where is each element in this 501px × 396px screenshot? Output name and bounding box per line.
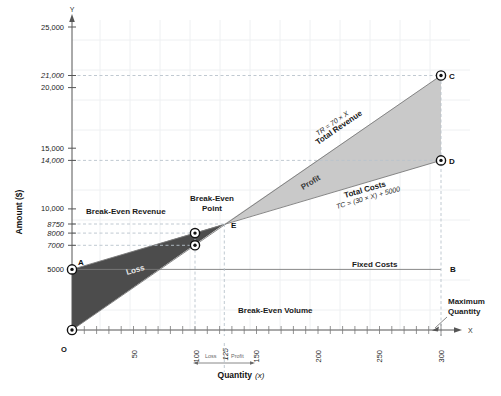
break-even-volume-label: Break-Even Volume <box>238 306 313 315</box>
point-label-A: A <box>78 258 84 267</box>
chart-canvas: 25,000 21,000 20,000 15,000 14,000 10,00… <box>0 0 501 396</box>
maximum-quantity-label-line1: Maximum <box>448 297 485 306</box>
break-even-point-label-line1: Break-Even <box>190 194 234 203</box>
point-A <box>67 265 76 274</box>
y-tick-15000: 15,000 <box>41 144 64 153</box>
maximum-quantity-label-line2: Quantity <box>448 307 481 316</box>
point-E-marker <box>190 229 199 238</box>
y-axis-title: Amount ($) <box>14 189 24 234</box>
x-tick-100: 100 <box>192 350 201 363</box>
y-tick-7000: 7000 <box>47 241 65 250</box>
x-axis-letter: X <box>468 327 473 334</box>
y-axis-letter: Y <box>70 6 75 13</box>
x-tick-300: 300 <box>437 350 446 363</box>
x-tick-125: 125 <box>221 347 230 360</box>
total-revenue-line <box>72 76 441 331</box>
fixed-costs-label: Fixed Costs <box>352 260 398 269</box>
break-even-chart: 25,000 21,000 20,000 15,000 14,000 10,00… <box>0 0 501 396</box>
x-tick-250: 250 <box>375 350 384 363</box>
x-axis-title: Quantity <box>218 370 253 380</box>
y-tick-8750: 8750 <box>47 220 65 229</box>
y-tick-25000: 25,000 <box>41 23 64 32</box>
x-tick-origin: O <box>61 345 67 354</box>
point-C <box>436 71 445 80</box>
y-tick-14000: 14,000 <box>41 156 65 165</box>
point-D <box>436 156 445 165</box>
point-label-D: D <box>449 157 455 166</box>
loss-arrow-label: Loss <box>205 353 217 359</box>
y-tick-21000: 21,000 <box>40 71 65 80</box>
x-tick-50: 50 <box>130 350 139 358</box>
point-label-B: B <box>450 265 456 274</box>
break-even-point-label-line2: Point <box>202 204 222 213</box>
y-tick-10000: 10,000 <box>41 204 64 213</box>
point-label-C: C <box>449 72 455 81</box>
y-tick-5000: 5000 <box>47 265 64 274</box>
point-P2 <box>190 241 199 250</box>
x-tick-150: 150 <box>252 350 261 363</box>
x-axis-title-var: (x) <box>255 371 265 380</box>
profit-arrow-label: Profit <box>231 353 244 359</box>
y-tick-8000: 8000 <box>47 229 65 238</box>
break-even-revenue-label: Break-Even Revenue <box>86 207 166 216</box>
y-tick-20000: 20,000 <box>41 83 64 92</box>
point-label-E: E <box>231 221 237 230</box>
point-O <box>67 325 76 334</box>
x-tick-200: 200 <box>314 350 323 363</box>
